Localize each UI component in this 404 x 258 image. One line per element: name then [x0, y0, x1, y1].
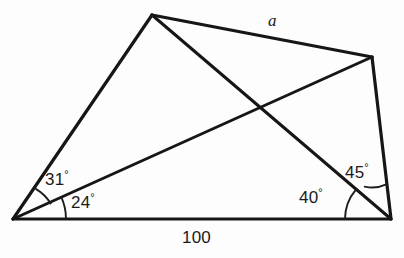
diagram-canvas [0, 0, 404, 258]
degree-symbol-icon: ° [64, 168, 68, 180]
degree-symbol-icon: ° [364, 161, 368, 173]
geometry-diagram: a 100 31° 24° 45° 40° [0, 0, 404, 258]
arc-angle-31 [36, 189, 51, 203]
angle-label-31-value: 31 [45, 170, 64, 189]
degree-symbol-icon: ° [90, 191, 94, 203]
edge-right-side [372, 57, 391, 219]
arc-angle-40 [345, 190, 356, 219]
angle-label-24-value: 24 [71, 193, 90, 212]
diagonal-d-b [152, 15, 391, 219]
angle-label-24: 24° [71, 192, 95, 211]
edge-top-side [152, 15, 372, 57]
side-label-a: a [268, 12, 277, 29]
angle-label-40: 40° [299, 187, 323, 206]
angle-label-45-value: 45 [345, 163, 364, 182]
angle-label-40-value: 40 [299, 188, 318, 207]
angle-label-45: 45° [345, 162, 369, 181]
angle-label-31: 31° [45, 169, 69, 188]
degree-symbol-icon: ° [318, 186, 322, 198]
arc-angle-24 [61, 197, 66, 219]
side-label-base: 100 [182, 229, 211, 246]
arc-angle-45 [365, 184, 387, 187]
